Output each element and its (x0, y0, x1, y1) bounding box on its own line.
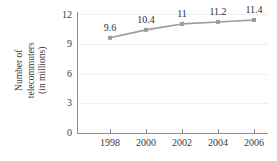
data-point-2000 (144, 28, 148, 32)
point-label-2006: 11.4 (234, 5, 274, 15)
line-chart: Number of telecommuters (in millions) 12… (0, 0, 277, 161)
point-label-1998: 9.6 (90, 23, 130, 33)
data-point-1998 (108, 36, 112, 40)
data-point-2006 (252, 18, 256, 22)
data-point-2002 (180, 22, 184, 26)
point-label-2004: 11.2 (198, 7, 238, 17)
data-point-2004 (216, 20, 220, 24)
point-label-2002: 11 (162, 9, 202, 19)
point-label-2000: 10.4 (126, 15, 166, 25)
